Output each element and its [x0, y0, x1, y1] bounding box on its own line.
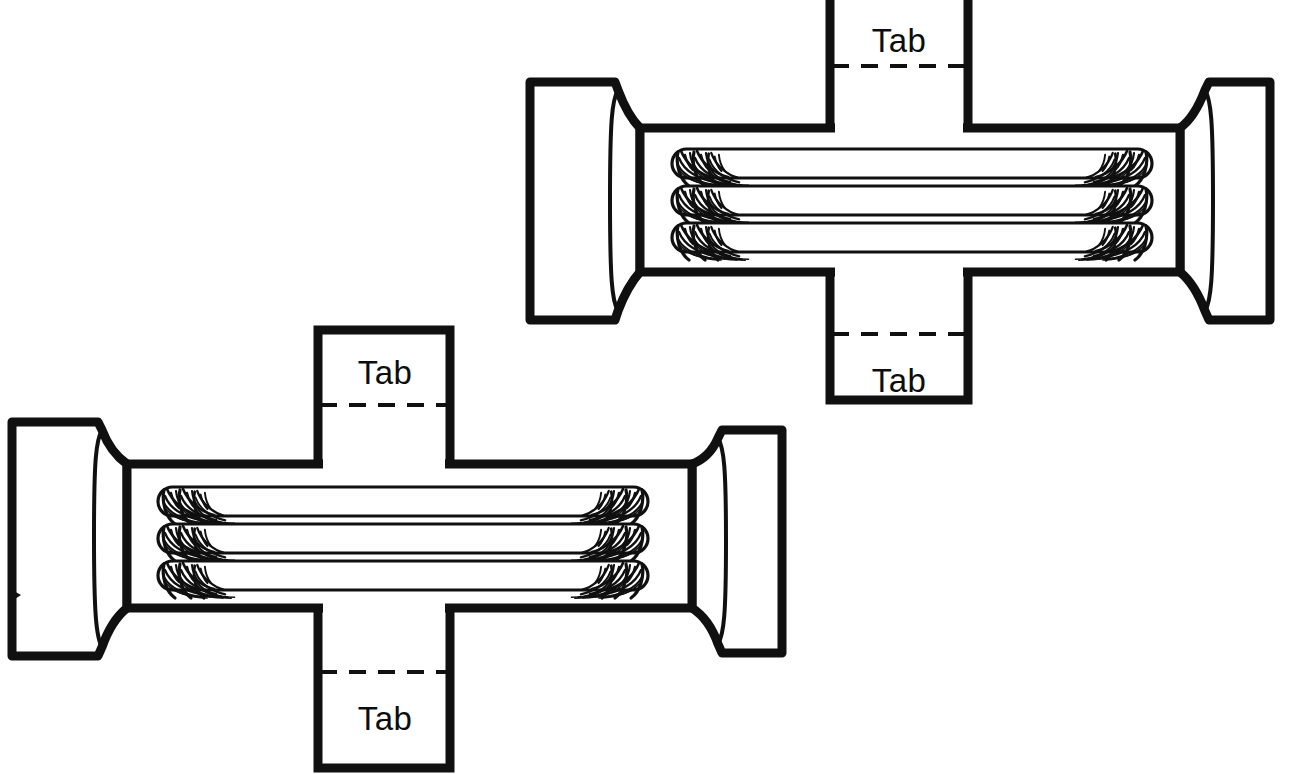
diagram-canvas: Tab Tab	[0, 0, 1303, 774]
lower-left-flange[interactable]	[12, 422, 127, 656]
lower-tab-top[interactable]: Tab	[318, 330, 450, 464]
upper-tab-top-label: Tab	[872, 22, 927, 59]
lower-right-flange[interactable]	[692, 430, 782, 653]
lower-pattern[interactable]: Tab Tab	[12, 330, 782, 768]
upper-tab-bottom-label: Tab	[872, 362, 927, 399]
pattern-drawing: Tab Tab	[0, 0, 1303, 774]
lower-tubes	[158, 487, 648, 598]
lower-tab-bottom[interactable]: Tab	[318, 608, 450, 768]
lower-tab-top-label: Tab	[358, 354, 413, 391]
upper-pattern[interactable]: Tab Tab	[530, 0, 1270, 400]
lower-tab-bottom-label: Tab	[358, 700, 413, 737]
lower-body-bottom-opening	[323, 602, 445, 614]
upper-tab-top[interactable]: Tab	[830, 0, 968, 128]
lower-body-top-opening	[323, 458, 445, 470]
upper-left-flange[interactable]	[530, 82, 640, 320]
upper-body-bottom-opening	[835, 266, 963, 278]
upper-body-top-opening	[835, 122, 963, 134]
upper-tubes	[672, 149, 1152, 260]
upper-tab-bottom[interactable]: Tab	[830, 272, 968, 400]
upper-right-flange[interactable]	[1180, 82, 1270, 320]
